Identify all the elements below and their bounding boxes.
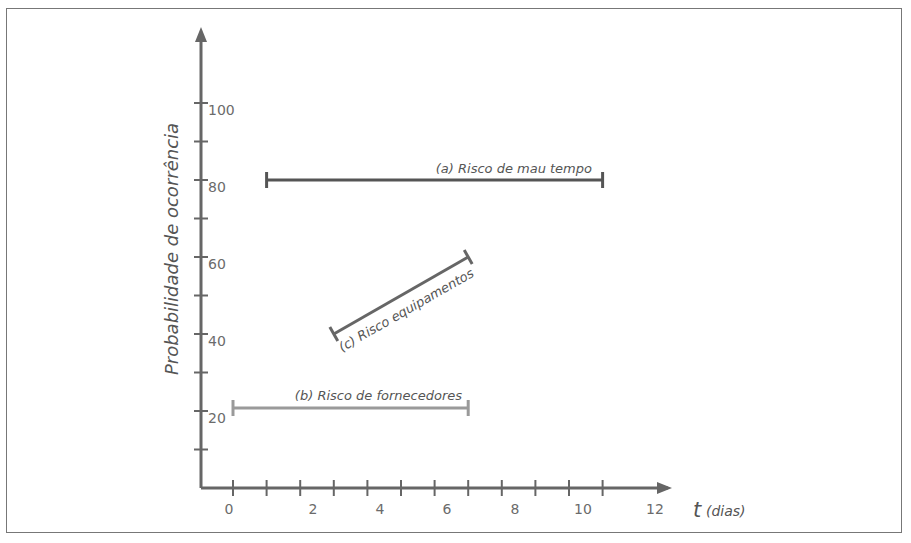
y-axis-label: Probabilidade de ocorrência bbox=[161, 123, 182, 375]
y-tick-label: 20 bbox=[208, 410, 226, 426]
x-tick-label: 12 bbox=[646, 501, 664, 517]
x-tick-label: 2 bbox=[309, 501, 318, 517]
series-label: (c) Risco equipamentos bbox=[336, 265, 477, 354]
x-axis-arrow-icon bbox=[657, 482, 672, 494]
x-tick-label: 4 bbox=[376, 501, 385, 517]
series-b: (b) Risco de fornecedores bbox=[233, 388, 468, 416]
series-label: (a) Risco de mau tempo bbox=[436, 161, 592, 176]
series-a: (a) Risco de mau tempo bbox=[267, 161, 603, 188]
series-c: (c) Risco equipamentos bbox=[330, 250, 477, 355]
range-chart: 024681012 20406080100 (a) Risco de mau t… bbox=[0, 0, 911, 543]
range-line bbox=[334, 257, 468, 334]
y-axis-arrow-icon bbox=[195, 27, 207, 42]
x-axis-unit: (dias) bbox=[706, 503, 746, 519]
y-tick-label: 80 bbox=[208, 179, 226, 195]
axes bbox=[195, 27, 672, 494]
x-tick-label: 10 bbox=[574, 501, 592, 517]
x-tick-label: 6 bbox=[443, 501, 452, 517]
x-axis-label: t bbox=[693, 498, 702, 522]
y-tick-label: 40 bbox=[208, 333, 226, 349]
series-label: (b) Risco de fornecedores bbox=[295, 388, 462, 403]
y-tick-label: 100 bbox=[208, 102, 235, 118]
series-group: (a) Risco de mau tempo(b) Risco de forne… bbox=[233, 161, 603, 416]
x-tick-label: 0 bbox=[225, 501, 234, 517]
y-tick-label: 60 bbox=[208, 256, 226, 272]
x-axis-ticks: 024681012 bbox=[225, 480, 664, 517]
x-tick-label: 8 bbox=[511, 501, 520, 517]
